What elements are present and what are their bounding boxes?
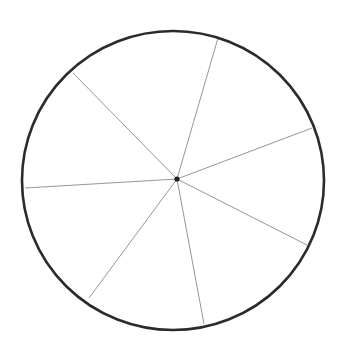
outer-circle xyxy=(22,31,324,330)
center-point xyxy=(174,176,179,181)
divided-circle-figure xyxy=(0,0,339,347)
sector-dividers xyxy=(25,38,312,324)
sector-divider-line xyxy=(89,179,177,298)
sector-divider-line xyxy=(177,128,312,179)
sector-divider-line xyxy=(177,179,307,245)
sector-divider-line xyxy=(73,73,177,179)
sector-divider-line xyxy=(177,179,204,324)
sector-divider-line xyxy=(177,38,218,179)
sector-diagram xyxy=(0,0,339,347)
sector-divider-line xyxy=(25,179,177,188)
